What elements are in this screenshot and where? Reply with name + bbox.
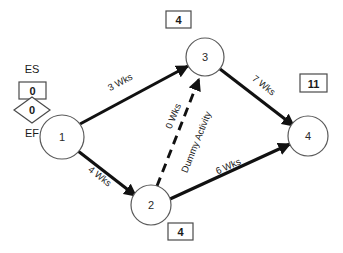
node-1-label: 1 <box>59 131 65 143</box>
node-4[interactable]: 4 <box>288 116 328 156</box>
edge-label-1-to-3: 3 Wks <box>106 71 135 93</box>
nodes-group: 1 2 3 4 <box>40 38 328 225</box>
es-tag-label: ES <box>25 63 40 75</box>
node-3[interactable]: 3 <box>186 38 224 76</box>
node-3-label: 3 <box>202 51 208 63</box>
value-box-node-2: 4 <box>168 223 193 240</box>
network-diagram: 1 2 3 4 3 Wks 4 Wks 7 Wks 6 Wks 0 Wks D <box>0 0 343 253</box>
value-box-node-2-text: 4 <box>177 226 184 238</box>
ef-tag-label: EF <box>25 127 39 139</box>
network-diagram-canvas: 1 2 3 4 3 Wks 4 Wks 7 Wks 6 Wks 0 Wks D <box>0 0 343 253</box>
node-2-label: 2 <box>148 199 154 211</box>
ef-value-diamond-text: 0 <box>29 104 35 116</box>
value-box-node-3-text: 4 <box>175 14 182 26</box>
es-value-box-text: 0 <box>29 85 35 97</box>
node-2[interactable]: 2 <box>131 185 171 225</box>
node-1[interactable]: 1 <box>40 115 84 159</box>
value-box-node-4: 11 <box>300 74 327 92</box>
value-box-node-3: 4 <box>166 11 191 28</box>
edge-label-2-to-3-name: Dummy Activity <box>179 110 214 175</box>
edge-labels-group: 3 Wks 4 Wks 7 Wks 6 Wks 0 Wks Dummy Acti… <box>86 71 278 189</box>
node-4-label: 4 <box>305 130 311 142</box>
value-box-node-4-text: 11 <box>308 78 320 90</box>
